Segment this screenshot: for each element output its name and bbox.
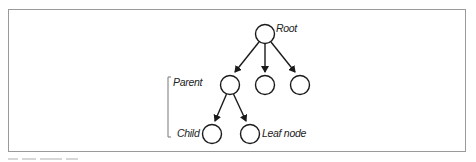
node-middle (256, 76, 275, 95)
nodes (203, 25, 310, 144)
label-root: Root (276, 22, 298, 34)
node-leaf (241, 125, 260, 144)
label-parent: Parent (173, 76, 204, 88)
edge-parent-child (215, 93, 227, 121)
edge-root-parent (235, 42, 259, 72)
edge-parent-leaf (233, 93, 246, 121)
edge-root-right (271, 42, 295, 72)
node-child (203, 125, 222, 144)
level-bracket (168, 77, 171, 137)
label-child: Child (177, 127, 201, 139)
node-parent (221, 76, 240, 95)
label-leaf-node: Leaf node (262, 127, 306, 139)
figure-caption-cropped (8, 158, 128, 162)
node-right (291, 76, 310, 95)
node-root (256, 25, 275, 44)
tree-diagram: Root Parent Child Leaf node (0, 0, 476, 162)
